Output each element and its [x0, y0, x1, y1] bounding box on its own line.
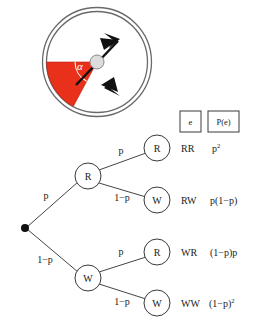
- outcome-event: RR: [181, 143, 195, 154]
- node-label: W: [83, 273, 93, 284]
- tree-node-r1[interactable]: R: [75, 163, 101, 189]
- outcome-probability-base: p(1−p): [210, 195, 237, 207]
- node-label: R: [85, 171, 92, 182]
- outcome-probability-exponent: 2: [217, 142, 220, 149]
- node-label: W: [152, 298, 162, 309]
- outcome-probability: p(1−p): [210, 195, 237, 207]
- root-node[interactable]: [21, 224, 29, 232]
- outcome-row-ww: WW (1−p)2: [181, 297, 235, 310]
- outcome-probability: p2: [212, 142, 220, 154]
- spinner-wheel[interactable]: α: [43, 8, 152, 117]
- outcome-probability: (1−p)p: [210, 247, 237, 259]
- tree-nodes: R W R W R W: [75, 135, 170, 316]
- outcome-rows: RR p2 RW p(1−p) WR (1−p)p WW (1−p)2: [181, 142, 237, 310]
- probability-figure: α e P(e) R W: [0, 0, 254, 333]
- outcome-event: RW: [181, 195, 197, 206]
- branch-label-w-to-r: p: [119, 246, 124, 257]
- tree-node-rw[interactable]: W: [144, 187, 170, 213]
- edge-root-to-r: [27, 182, 78, 227]
- tree-node-wr[interactable]: R: [144, 239, 170, 265]
- branch-label-r-to-r: p: [119, 145, 124, 156]
- branch-label-root-to-w: 1−p: [37, 254, 53, 265]
- edge-root-to-w: [27, 229, 78, 272]
- outcome-event: WR: [181, 247, 197, 258]
- branch-label-r-to-w: 1−p: [114, 192, 130, 203]
- spinner-angle-label: α: [77, 60, 83, 72]
- spinner-hub[interactable]: [90, 55, 104, 69]
- outcome-probability-exponent: 2: [231, 297, 234, 304]
- outcome-probability-base: (1−p)p: [210, 247, 237, 259]
- branch-label-w-to-w: 1−p: [114, 296, 130, 307]
- event-header-label: e: [189, 117, 193, 127]
- tree-node-ww[interactable]: W: [144, 290, 170, 316]
- branch-label-root-to-r: p: [44, 190, 49, 201]
- tree-node-rr[interactable]: R: [144, 135, 170, 161]
- outcome-row-wr: WR (1−p)p: [181, 247, 237, 259]
- figure-canvas: α e P(e) R W: [0, 0, 254, 333]
- node-label: R: [154, 247, 161, 258]
- outcome-probability-base: (1−p): [209, 298, 231, 310]
- node-label: W: [152, 195, 162, 206]
- outcome-event: WW: [181, 298, 200, 309]
- node-label: R: [154, 143, 161, 154]
- outcome-probability: (1−p)2: [209, 297, 235, 310]
- outcome-row-rr: RR p2: [181, 142, 220, 154]
- probability-header-label: P(e): [216, 117, 230, 127]
- tree-node-w1[interactable]: W: [75, 265, 101, 291]
- edge-w-to-wr: [99, 257, 146, 272]
- outcome-row-rw: RW p(1−p): [181, 195, 237, 207]
- outcome-table-header: e P(e): [180, 111, 239, 132]
